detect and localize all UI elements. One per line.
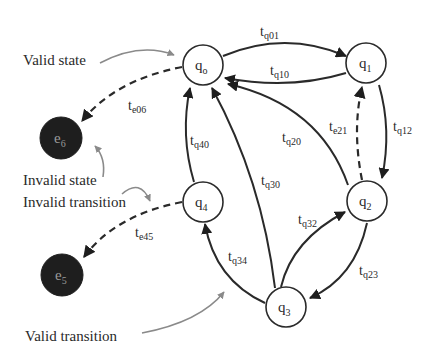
edge-label-te45: te45 [135, 225, 153, 242]
state-q4: q4 [183, 182, 223, 222]
state-q2: q2 [347, 181, 387, 221]
edge-te21 [357, 87, 362, 180]
edge-tq23 [310, 223, 367, 298]
annotation-invalid-transition: Invalid transition [23, 194, 126, 210]
edge-tq12 [379, 85, 386, 178]
edge-label-tq34: tq34 [228, 249, 247, 266]
edge-label-tq01: tq01 [260, 24, 279, 41]
error-state-e6: e6 [40, 117, 82, 159]
edge-label-tq30: tq30 [261, 173, 280, 190]
edge-label-tq23: tq23 [359, 263, 378, 280]
edge-tq01 [223, 43, 346, 56]
annotation-arrow-valid-state [100, 50, 174, 63]
annotation-invalid-state: Invalid state [23, 172, 97, 188]
edge-te45 [84, 202, 182, 257]
edge-label-tq12: tq12 [393, 119, 412, 136]
edge-label-tq10: tq10 [270, 63, 289, 80]
state-q0: qo [183, 45, 223, 85]
edge-label-tq32: tq32 [298, 212, 317, 229]
state-transition-diagram: qo q1 q2 q3 q4 e6 e5 tq01 tq10 tq12 [0, 0, 439, 354]
edge-label-te21: te21 [329, 119, 347, 136]
annotation-arrow-invalid-transition [122, 187, 150, 201]
error-state-e5: e5 [41, 254, 83, 296]
edge-label-tq20: tq20 [282, 130, 301, 147]
edge-label-te06: te06 [128, 98, 146, 115]
edge-tq20 [228, 84, 348, 185]
annotation-valid-transition: Valid transition [25, 328, 118, 344]
state-q1: q1 [346, 43, 386, 83]
edge-label-tq40: tq40 [190, 133, 209, 150]
annotation-arrow-valid-transition [142, 292, 224, 333]
state-q3: q3 [266, 287, 306, 327]
annotation-valid-state: Valid state [23, 52, 86, 68]
